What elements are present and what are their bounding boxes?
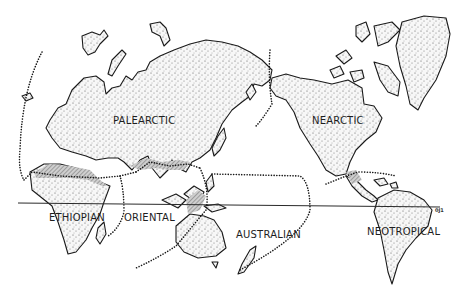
caribbean-islands: [374, 178, 398, 188]
realm-label-neotropical: NEOTROPICAL: [367, 226, 440, 237]
south-america-landmass: [374, 190, 432, 284]
australia-landmass: [176, 214, 226, 258]
greenland: [396, 16, 450, 110]
realm-label-palearctic: PALEARCTIC: [113, 115, 175, 126]
madagascar: [96, 222, 106, 244]
eurasia-landmass: [46, 40, 272, 178]
tasmania: [212, 262, 218, 268]
figure-mark: 0J1: [435, 207, 444, 213]
realm-label-australian: AUSTRALIAN: [236, 229, 301, 240]
realm-label-oriental: ORIENTAL: [124, 212, 175, 223]
realm-label-ethiopian: ETHIOPIAN: [49, 212, 105, 223]
realm-label-nearctic: NEARCTIC: [312, 115, 364, 126]
world-map: [0, 0, 462, 299]
